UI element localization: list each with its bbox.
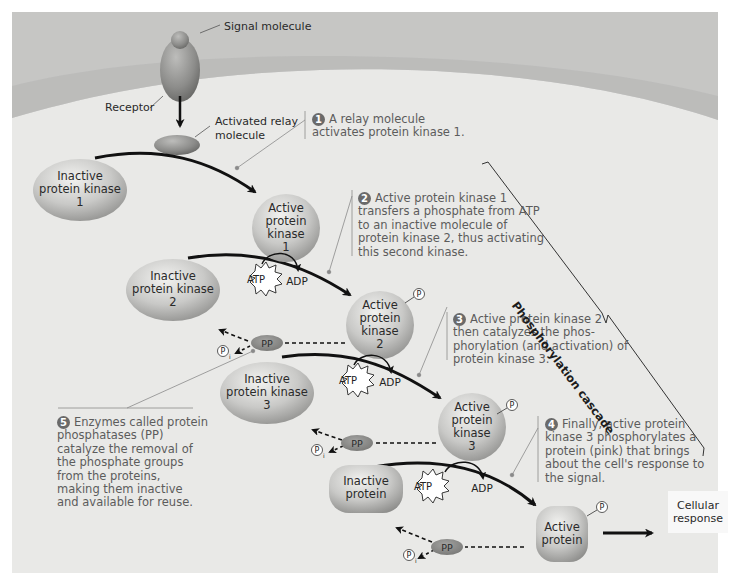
svg-text:PP: PP [441, 542, 453, 553]
step-4-text: Finally, active protein kinase 3 phospho… [545, 417, 704, 485]
active-pk1-label: Active protein kinase 1 [252, 202, 320, 254]
active-pk2-label: Active protein kinase 2 [346, 299, 414, 351]
active-protein-label: Active protein [536, 521, 588, 547]
step-5-text: Enzymes called protein phosphatases (PP)… [57, 415, 208, 509]
svg-text:PP: PP [351, 438, 363, 449]
phosphorylation-cascade-diagram: P P P ATP ATP ATP ADP ADP ADP [0, 0, 734, 582]
svg-text:P: P [315, 446, 320, 455]
inactive-protein-label: Inactive protein [329, 475, 403, 501]
step-5-note: 5Enzymes called protein phosphatases (PP… [57, 416, 208, 510]
signal-molecule [171, 31, 189, 49]
receptor-label: Receptor [105, 101, 154, 114]
svg-text:P: P [417, 290, 422, 299]
step-5-badge: 5 [57, 416, 70, 429]
svg-text:ADP: ADP [379, 376, 401, 388]
svg-text:ADP: ADP [286, 275, 308, 287]
svg-text:P: P [221, 347, 226, 356]
step-2-badge: 2 [358, 192, 371, 205]
cellular-response-box: Cellular response [668, 491, 728, 533]
step-4-badge: 4 [545, 418, 558, 431]
step-1-note: 1A relay molecule activates protein kina… [312, 113, 465, 140]
signal-molecule-label: Signal molecule [224, 20, 311, 33]
step-1-badge: 1 [312, 113, 325, 126]
relay-molecule [154, 135, 200, 155]
svg-text:PP: PP [261, 338, 273, 349]
svg-text:ATP: ATP [339, 375, 357, 386]
step-2-note: 2Active protein kinase 1 transfers a pho… [358, 192, 544, 259]
activated-relay-label: Activated relay molecule [215, 115, 298, 143]
svg-text:P: P [407, 551, 412, 560]
active-pk3-label: Active protein kinase 3 [438, 401, 506, 453]
step-3-badge: 3 [453, 313, 466, 326]
step-2-text: Active protein kinase 1 transfers a phos… [358, 191, 544, 259]
svg-text:ADP: ADP [471, 482, 493, 494]
inactive-pk3-label: Inactive protein kinase 3 [220, 373, 314, 412]
svg-text:P: P [510, 401, 515, 410]
svg-text:P: P [600, 503, 605, 512]
step-4-note: 4Finally, active protein kinase 3 phosph… [545, 418, 704, 485]
svg-text:ATP: ATP [414, 481, 432, 492]
step-1-text: A relay molecule activates protein kinas… [312, 112, 465, 139]
inactive-pk1-label: Inactive protein kinase 1 [33, 170, 127, 209]
inactive-pk2-label: Inactive protein kinase 2 [126, 270, 220, 309]
svg-text:ATP: ATP [247, 274, 265, 285]
